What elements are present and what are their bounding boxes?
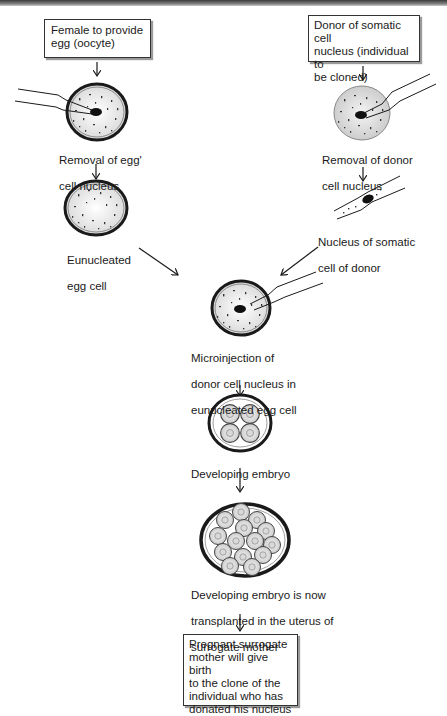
embryo-multi-cell xyxy=(201,504,289,577)
box-text-line: Female to provide xyxy=(51,24,144,37)
label-removal-donor-nucleus: Removal of donor cell nucleus xyxy=(322,141,413,206)
box-text-line: donated his nucleus xyxy=(189,703,292,716)
label-enucleated-egg: Eunucleated egg cell xyxy=(67,241,131,306)
box-text-line: egg (oocyte) xyxy=(51,37,144,50)
arrow-nucleus-to-injection xyxy=(281,247,318,275)
egg-nucleus-removal-cell xyxy=(15,84,127,140)
label-line: eunucleated egg cell xyxy=(191,404,297,417)
label-line: Microinjection of xyxy=(191,352,297,365)
label-line: Removal of egg' xyxy=(59,154,142,167)
label-line: cell of donor xyxy=(318,262,415,275)
box-somatic-cell-donor: Donor of somatic cell nucleus (individua… xyxy=(308,15,420,62)
label-line: Eunucleated xyxy=(67,254,131,267)
label-developing-embryo: Developing embryo xyxy=(191,455,290,494)
box-text-line: to the clone of the xyxy=(189,677,292,690)
box-text-line: Donor of somatic cell xyxy=(314,19,414,45)
label-line: Nucleus of somatic xyxy=(318,236,415,249)
box-text-line: be cloned) xyxy=(314,71,414,84)
label-line: Developing embryo is now xyxy=(191,589,334,602)
box-text-line: nucleus (individual to xyxy=(314,45,414,71)
box-female-egg-donor: Female to provide egg (oocyte) xyxy=(44,19,151,58)
label-line: Developing embryo xyxy=(191,468,290,481)
label-line: cell nucleus xyxy=(59,180,142,193)
label-line: egg cell xyxy=(67,280,131,293)
label-line: donor cell nucleus in xyxy=(191,378,297,391)
label-line: transplanted in the uterus of xyxy=(191,615,334,628)
label-microinjection: Microinjection of donor cell nucleus in … xyxy=(191,339,297,430)
label-somatic-nucleus: Nucleus of somatic cell of donor xyxy=(318,223,415,288)
label-removal-egg-nucleus: Removal of egg' cell nucleus xyxy=(59,141,142,206)
label-line: surrogate mother xyxy=(191,641,334,654)
microinjection-cell xyxy=(212,272,323,335)
label-line: cell nucleus xyxy=(322,180,413,193)
label-transplanted: Developing embryo is now transplanted in… xyxy=(191,576,334,667)
box-text-line: individual who has xyxy=(189,690,292,703)
arrow-enucleated-to-injection xyxy=(139,248,178,275)
label-line: Removal of donor xyxy=(322,154,413,167)
